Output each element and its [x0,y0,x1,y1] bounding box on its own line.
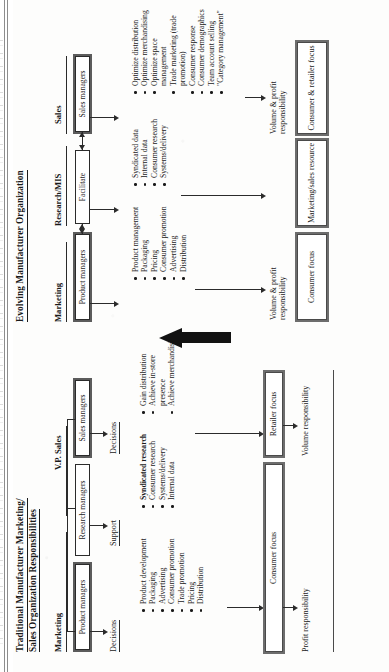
evolving-arrowhead-to-facilitate-left [79,224,85,229]
evolving-arrow-line-marketing [90,303,116,304]
traditional-title-line2: Sales Organization Responsibilities [27,509,40,652]
traditional-col-header-vpsales: V.P. Sales [53,435,63,470]
traditional-arrow-line-support [90,525,104,526]
evolving-sales-rule [66,56,67,134]
list-item: Distribution [196,516,205,612]
scanned-page: Traditional Manufacturer Marketing/ Sale… [0,0,389,672]
evolving-arrowhead-sales-outcome [261,95,266,101]
evolving-flow-line-sales [245,97,263,98]
traditional-title: Traditional Manufacturer Marketing/ Sale… [15,422,40,652]
list-item: Distribution [178,194,187,280]
traditional-responsibility-profit: Profit responsibility [301,502,310,652]
evolving-col-header-marketing: Marketing [53,283,63,322]
evolving-arrowhead-marketing-outcome [261,287,266,293]
evolving-responsibility-sales: Volume & profit responsibility [269,50,288,134]
list-item: Advertising [169,194,178,280]
traditional-arrow-line-decisions-1 [90,631,104,632]
traditional-arrowhead-decisions-2 [103,431,108,437]
evolving-responsibility-marketing: Volume & profit responsibility [269,236,288,320]
traditional-rolebox-sales-managers[interactable]: Sales managers [75,380,90,456]
traditional-bracket-top-left [67,508,68,632]
traditional-baseline-rule [333,370,334,652]
traditional-flow-line-retailer-v [195,433,241,434]
traditional-bracket-drop-sales [67,419,76,420]
evolving-title: Evolving Manufacturer Organization [15,92,28,322]
evolving-research-rule [66,146,67,226]
traditional-outcome-box-consumer-focus[interactable]: Consumer focus [265,464,283,652]
evolving-arrow-line-sales [90,117,116,118]
evolving-arrowhead-to-sales-managers [79,132,85,137]
evolving-arrowhead-to-product-managers [79,229,85,234]
evolving-outcome-box-marketing-sales-resource[interactable]: Marketing/sales resource [297,140,327,226]
evolving-col-header-research: Research/MIS [53,174,63,226]
traditional-organization-panel: Traditional Manufacturer Marketing/ Sale… [9,348,381,666]
figure-sheet: Traditional Manufacturer Marketing/ Sale… [9,6,381,666]
traditional-arrowhead-volume [293,423,298,429]
traditional-arrowhead-support [103,523,108,529]
evolving-arrowhead-research-outcome [261,193,266,199]
evolving-flow-line-marketing [195,289,263,290]
rotated-figure-wrapper: Traditional Manufacturer Marketing/ Sale… [0,0,389,672]
traditional-arrowhead-profit [293,605,298,611]
evolving-bullets-sales: Optimize distribution Optimize merchandi… [130,2,225,134]
traditional-flow-line-consumer [227,607,261,608]
traditional-action-decisions-marketing: Decisions [109,620,120,652]
traditional-rolebox-product-managers[interactable]: Product managers [75,564,90,650]
evolving-col-header-sales: Sales [53,105,63,124]
evolving-arrowhead-research [114,207,119,213]
evolving-rolebox-facilitate[interactable]: Facilitate [75,150,90,224]
list-item: Optimize merchandising [140,2,149,94]
evolving-arrowhead-to-facilitate-right [79,145,85,150]
list-item: Consumer response [187,2,196,94]
traditional-arrowhead-retailer-focus [259,431,264,437]
traditional-flow-line-retailer-down [241,433,261,434]
traditional-arrowhead-consumer-focus [259,605,264,611]
traditional-bracket-top-right [67,419,68,509]
transition-arrow-shaft [181,332,231,343]
list-item: Trade promotion [177,516,186,612]
list-item: Consumer demographics [197,2,206,94]
evolving-organization-panel: Evolving Manufacturer Organization Marke… [9,6,381,330]
traditional-action-decisions-sales: Decisions [109,422,120,454]
evolving-outcome-box-consumer-focus[interactable]: Consumer focus [297,234,327,320]
evolving-rolebox-product-managers[interactable]: Product managers [75,234,90,320]
traditional-rolebox-research-managers[interactable]: Research managers [75,464,90,556]
traditional-col-header-marketing: Marketing [53,613,63,652]
transition-arrow-icon [159,328,231,348]
evolving-marketing-rule [66,242,67,322]
traditional-arrowhead-decisions-1 [103,629,108,635]
list-item: Team account selling [206,2,215,94]
list-item: Optimize space management [149,2,168,94]
traditional-responsibility-volume: Volume responsibility [301,380,310,456]
traditional-bullets-sales: Gain distribution Achieve in-store prese… [138,330,176,454]
list-item: Pricing [186,516,195,612]
traditional-title-line1: Traditional Manufacturer Marketing/ [15,498,28,652]
traditional-arrow-line-decisions-2 [90,433,104,434]
list-item: "Category management" [216,2,225,94]
evolving-title-text: Evolving Manufacturer Organization [15,170,28,322]
evolving-rolebox-sales-managers[interactable]: Sales managers [75,56,90,132]
list-item: Optimize distribution [130,2,139,94]
list-item: Gain distribution [138,330,147,414]
evolving-flow-line-research [181,195,263,196]
traditional-action-support-research: Support [109,520,120,546]
evolving-arrowhead-sales [114,115,119,121]
transition-arrow-head [159,328,182,348]
evolving-arrow-line-research [90,209,116,210]
traditional-bracket-drop-marketing [67,631,76,632]
list-item: Trade marketing (trade promotion) [168,2,187,94]
evolving-outcome-box-consumer-retailer-focus[interactable]: Consumer & retailer focus [297,42,327,134]
evolving-arrowhead-marketing [114,301,119,307]
traditional-outcome-box-retailer-focus[interactable]: Retailer focus [265,372,283,456]
